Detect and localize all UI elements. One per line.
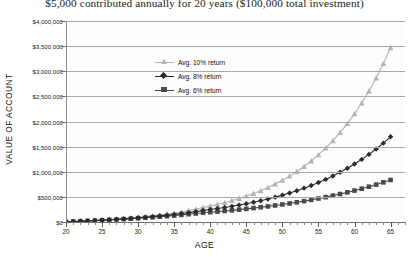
data-point: [266, 204, 271, 209]
x-tick-label: 35: [162, 228, 186, 235]
y-axis-tick-labels: $0$500,000$1,000,000$1,500,000$2,000,000…: [0, 0, 63, 257]
data-point: [280, 202, 285, 207]
x-tick-minor: [275, 222, 276, 225]
x-tick-minor: [131, 222, 132, 225]
x-tick-minor: [254, 222, 255, 225]
y-tick-label: $2,000,000: [33, 118, 64, 125]
data-point: [287, 173, 293, 178]
x-tick-major: [138, 222, 139, 227]
legend-item[interactable]: Avg. 10% return: [155, 55, 259, 69]
legend-item[interactable]: Avg. 8% return: [155, 69, 259, 83]
legend-label: Avg. 8% return: [174, 73, 222, 80]
x-tick-major: [210, 222, 211, 227]
data-point: [374, 182, 379, 187]
legend-marker-triangle-icon: [155, 58, 174, 67]
x-tick-major: [246, 222, 247, 227]
x-tick-minor: [398, 222, 399, 225]
x-tick-minor: [340, 222, 341, 225]
data-point: [345, 166, 350, 171]
x-tick-minor: [88, 222, 89, 225]
y-axis-line: [66, 21, 67, 223]
data-point: [323, 177, 328, 182]
x-tick-minor: [405, 222, 406, 225]
plot-area: [66, 21, 405, 222]
data-point: [251, 206, 256, 211]
data-point: [251, 200, 256, 205]
x-tick-minor: [189, 222, 190, 225]
data-point: [295, 200, 300, 205]
data-point: [258, 188, 264, 193]
data-point: [316, 180, 321, 185]
x-tick-major: [318, 222, 319, 227]
series-square: [66, 178, 393, 222]
y-tick-label: $500,000: [38, 193, 63, 200]
legend-marker-diamond-icon: [155, 72, 174, 81]
x-tick-minor: [124, 222, 125, 225]
x-tick-minor: [383, 222, 384, 225]
x-tick-minor: [297, 222, 298, 225]
x-tick-minor: [153, 222, 154, 225]
x-tick-minor: [311, 222, 312, 225]
x-tick-major: [282, 222, 283, 227]
x-tick-minor: [73, 222, 74, 225]
y-tick-label: $4,000,000: [33, 18, 64, 25]
data-point: [237, 207, 242, 212]
x-tick-minor: [326, 222, 327, 225]
x-tick-label: 20: [54, 228, 78, 235]
series-line: [66, 137, 391, 222]
x-tick-minor: [116, 222, 117, 225]
x-axis-title: AGE: [0, 240, 409, 250]
gridline: [66, 46, 405, 47]
x-tick-label: 60: [343, 228, 367, 235]
data-point: [359, 100, 365, 105]
data-point: [352, 161, 357, 166]
x-tick-label: 25: [90, 228, 114, 235]
x-tick-minor: [290, 222, 291, 225]
x-tick-minor: [225, 222, 226, 225]
data-point: [244, 201, 249, 206]
x-tick-minor: [80, 222, 81, 225]
chart-container: $5,000 contributed annually for 20 years…: [0, 0, 409, 257]
x-tick-label: 45: [234, 228, 258, 235]
x-tick-minor: [196, 222, 197, 225]
data-point: [359, 186, 364, 191]
gridline: [66, 197, 405, 198]
x-tick-minor: [160, 222, 161, 225]
legend-marker-square-icon: [155, 86, 174, 95]
data-point: [279, 177, 285, 182]
x-tick-major: [66, 222, 67, 227]
x-tick-label: 55: [306, 228, 330, 235]
data-point: [265, 185, 271, 190]
data-point: [380, 61, 386, 66]
x-tick-minor: [217, 222, 218, 225]
x-tick-minor: [239, 222, 240, 225]
data-point: [294, 188, 299, 193]
x-tick-minor: [376, 222, 377, 225]
legend-label: Avg. 10% return: [174, 59, 225, 66]
data-point: [301, 185, 306, 190]
chart-legend: Avg. 10% returnAvg. 8% returnAvg. 6% ret…: [155, 55, 259, 97]
data-point: [381, 180, 386, 185]
data-point: [373, 75, 379, 80]
x-tick-minor: [167, 222, 168, 225]
gridline: [66, 21, 405, 22]
x-tick-minor: [268, 222, 269, 225]
data-point: [309, 183, 314, 188]
data-point: [258, 198, 263, 203]
x-tick-minor: [203, 222, 204, 225]
y-tick-label: $2,500,000: [33, 93, 64, 100]
data-point: [345, 190, 350, 195]
x-tick-minor: [109, 222, 110, 225]
data-point: [258, 205, 263, 210]
data-point: [244, 207, 249, 212]
y-tick-label: $3,000,000: [33, 68, 64, 75]
x-tick-major: [391, 222, 392, 227]
data-point: [287, 190, 292, 195]
data-point: [366, 88, 372, 93]
legend-item[interactable]: Avg. 6% return: [155, 83, 259, 97]
y-tick-label: $1,500,000: [33, 143, 64, 150]
x-tick-minor: [362, 222, 363, 225]
gridline: [66, 172, 405, 173]
x-tick-minor: [232, 222, 233, 225]
x-tick-minor: [261, 222, 262, 225]
